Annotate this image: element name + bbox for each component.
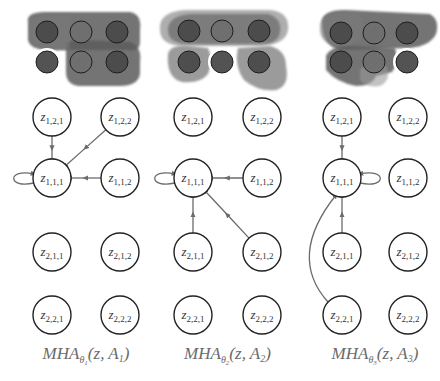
panel-1-caption: MHAθ1(z, A1) bbox=[42, 344, 130, 367]
attention-edge bbox=[205, 191, 249, 239]
patch-dot bbox=[330, 22, 352, 44]
patch-dot bbox=[178, 20, 200, 42]
token-nodes: z1,2,1z1,2,2z1,1,1z1,1,2z2,1,1z2,1,2z2,2… bbox=[33, 98, 427, 334]
attention-blobs bbox=[28, 10, 437, 90]
token-node-z-1-2-1: z1,2,1 bbox=[323, 98, 361, 136]
self-attention-loop bbox=[155, 173, 175, 184]
token-node-z-2-1-1: z2,1,1 bbox=[174, 233, 212, 271]
patch-dot bbox=[211, 51, 233, 73]
token-node-z-2-1-1: z2,1,1 bbox=[323, 233, 361, 271]
token-node-z-1-2-2: z1,2,2 bbox=[389, 98, 427, 136]
attention-edges bbox=[14, 130, 381, 302]
token-node-z-2-2-2: z2,2,2 bbox=[243, 296, 281, 334]
token-node-z-1-1-2: z1,1,2 bbox=[243, 159, 281, 197]
patch-dot bbox=[70, 21, 92, 43]
diagram-canvas: z1,2,1z1,2,2z1,1,1z1,1,2z2,1,1z2,1,2z2,2… bbox=[0, 0, 440, 381]
patch-dot bbox=[211, 20, 233, 42]
token-node-z-2-2-1: z2,2,1 bbox=[174, 296, 212, 334]
patch-dot bbox=[106, 21, 128, 43]
panel-3-caption: MHAθ3(z, A3) bbox=[331, 344, 419, 367]
token-node-z-2-1-2: z2,1,2 bbox=[389, 233, 427, 271]
patch-dot bbox=[70, 51, 92, 73]
patch-dot bbox=[396, 22, 418, 44]
token-node-z-1-1-1: z1,1,1 bbox=[174, 159, 212, 197]
panel-1-nodes: z1,2,1z1,2,2z1,1,1z1,1,2z2,1,1z2,1,2z2,2… bbox=[33, 98, 139, 334]
token-node-z-2-1-2: z2,1,2 bbox=[101, 233, 139, 271]
token-node-z-1-2-2: z1,2,2 bbox=[101, 98, 139, 136]
patch-dot bbox=[106, 51, 128, 73]
token-node-z-2-1-1: z2,1,1 bbox=[33, 233, 71, 271]
patch-dot bbox=[330, 51, 352, 73]
panel-3-nodes: z1,2,1z1,2,2z1,1,1z1,1,2z2,1,1z2,1,2z2,2… bbox=[323, 98, 427, 334]
patch-dot bbox=[363, 22, 385, 44]
token-node-z-1-1-2: z1,1,2 bbox=[101, 159, 139, 197]
patch-dot bbox=[36, 51, 58, 73]
self-attention-loop bbox=[360, 173, 380, 184]
patch-dot bbox=[363, 51, 385, 73]
panel-2-attention-map bbox=[160, 10, 288, 90]
token-node-z-2-2-1: z2,2,1 bbox=[323, 296, 361, 334]
token-node-z-2-2-2: z2,2,2 bbox=[101, 296, 139, 334]
token-node-z-2-1-2: z2,1,2 bbox=[243, 233, 281, 271]
token-node-z-1-2-1: z1,2,1 bbox=[33, 98, 71, 136]
patch-dot bbox=[36, 21, 58, 43]
patch-dot bbox=[248, 20, 270, 42]
token-node-z-2-2-2: z2,2,2 bbox=[389, 296, 427, 334]
panel-captions: MHAθ1(z, A1)MHAθ2(z, A2)MHAθ3(z, A3) bbox=[42, 344, 419, 367]
token-node-z-1-2-1: z1,2,1 bbox=[174, 98, 212, 136]
token-node-z-1-1-2: z1,1,2 bbox=[389, 159, 427, 197]
panel-3-attention-map bbox=[320, 10, 437, 86]
patch-dot bbox=[178, 51, 200, 73]
panel-1-attention-map bbox=[28, 12, 140, 86]
panel-2-nodes: z1,2,1z1,2,2z1,1,1z1,1,2z2,1,1z2,1,2z2,2… bbox=[174, 98, 281, 334]
token-node-z-1-2-2: z1,2,2 bbox=[243, 98, 281, 136]
patch-dot bbox=[396, 51, 418, 73]
token-node-z-2-2-1: z2,2,1 bbox=[33, 296, 71, 334]
token-node-z-1-1-1: z1,1,1 bbox=[33, 159, 71, 197]
attention-edge bbox=[65, 130, 106, 167]
patch-dot bbox=[248, 51, 270, 73]
attention-diagram: z1,2,1z1,2,2z1,1,1z1,1,2z2,1,1z2,1,2z2,2… bbox=[0, 0, 440, 381]
token-node-z-1-1-1: z1,1,1 bbox=[323, 159, 361, 197]
panel-2-caption: MHAθ2(z, A2) bbox=[183, 344, 271, 367]
self-attention-loop bbox=[14, 173, 34, 184]
